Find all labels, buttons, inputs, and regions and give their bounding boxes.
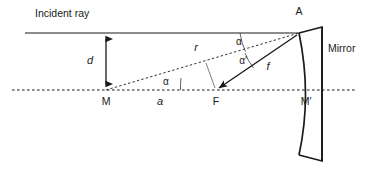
mirror-body (299, 27, 322, 161)
angle-helper-segment-f (206, 63, 215, 88)
mirror-label: Mirror (328, 42, 356, 54)
point-a-label: A (295, 5, 302, 17)
point-m-label: M (102, 95, 111, 107)
optics-diagram-canvas: Incident ray Mirror M F M′ A d a r f α α… (0, 0, 367, 171)
angle-alpha-at-a-label: α (236, 36, 242, 47)
distance-d-label: d (87, 54, 94, 66)
distance-r-label: r (194, 41, 199, 53)
incident-ray-label: Incident ray (35, 7, 90, 19)
distance-f-label: f (266, 60, 270, 72)
point-f-label: F (213, 95, 219, 107)
optics-diagram: Incident ray Mirror M F M′ A d a r f α α… (0, 0, 367, 171)
angle-alpha-at-m-label: α (163, 76, 169, 87)
angle-arc-alpha-at-m (180, 78, 181, 90)
radius-line-r (106, 33, 299, 90)
reflected-ray-f (219, 35, 297, 88)
distance-a-label: a (157, 95, 163, 107)
angle-alpha-prime-at-a-label: α′ (239, 55, 247, 66)
point-m-prime-label: M′ (301, 95, 312, 107)
